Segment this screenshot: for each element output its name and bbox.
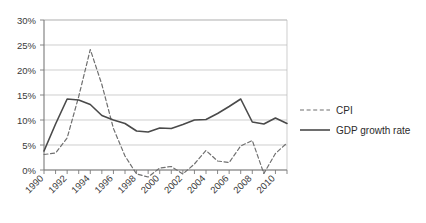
- x-axis-tick-label: 2010: [254, 173, 277, 196]
- y-axis-tick-labels: 0%5%10%15%20%25%30%: [17, 15, 44, 176]
- x-axis-tick-label: 1990: [23, 173, 46, 196]
- legend-label-gdp-growth-rate: GDP growth rate: [336, 125, 411, 136]
- x-axis-tick-labels: 1990199219941996199820002002200420062008…: [23, 173, 277, 196]
- x-axis-tick-label: 2004: [185, 173, 208, 196]
- chart-container: 0%5%10%15%20%25%30% 19901992199419961998…: [0, 0, 426, 223]
- series-line-cpi: [44, 50, 287, 178]
- y-axis-tick-label: 15%: [17, 90, 37, 101]
- y-axis-tick-label: 10%: [17, 115, 37, 126]
- gridlines: [44, 20, 287, 170]
- legend-label-cpi: CPI: [336, 105, 353, 116]
- x-axis-tick-label: 1994: [69, 173, 92, 196]
- series-line-gdp-growth-rate: [44, 99, 287, 151]
- x-axis-tick-label: 2002: [162, 173, 185, 196]
- y-axis-tick-label: 20%: [17, 65, 37, 76]
- x-axis-tick-marks: [44, 170, 287, 174]
- x-axis-tick-label: 1996: [92, 173, 115, 196]
- x-axis-tick-label: 1998: [115, 173, 138, 196]
- x-axis-tick-label: 1992: [46, 173, 69, 196]
- x-axis-tick-label: 2008: [231, 173, 254, 196]
- y-axis-tick-label: 0%: [22, 165, 36, 176]
- y-axis-tick-label: 30%: [17, 15, 37, 26]
- x-axis-tick-label: 2006: [208, 173, 231, 196]
- line-chart: 0%5%10%15%20%25%30% 19901992199419961998…: [0, 0, 426, 223]
- data-series: [44, 50, 287, 178]
- y-axis-tick-label: 25%: [17, 40, 37, 51]
- chart-legend: CPIGDP growth rate: [300, 105, 411, 136]
- x-axis-tick-label: 2000: [138, 173, 161, 196]
- y-axis-tick-label: 5%: [22, 140, 36, 151]
